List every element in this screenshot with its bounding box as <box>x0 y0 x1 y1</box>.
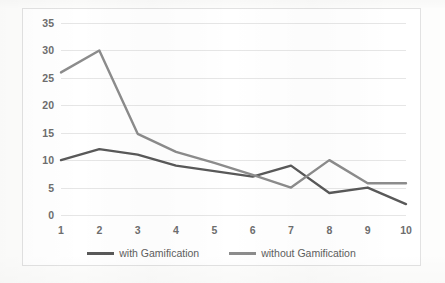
legend-entry[interactable]: without Gamification <box>229 247 356 259</box>
x-axis-tick-label: 7 <box>288 224 294 236</box>
legend-line-swatch-icon <box>87 252 114 255</box>
y-axis-tick-label: 0 <box>48 209 54 221</box>
y-axis-tick-label: 20 <box>42 99 54 111</box>
legend-line-swatch-icon <box>229 252 256 255</box>
chart-frame: 05101520253035 12345678910 with Gamifica… <box>22 8 421 266</box>
y-axis-tick-label: 5 <box>48 182 54 194</box>
x-axis-tick-label: 9 <box>365 224 371 236</box>
series-lines <box>61 23 406 215</box>
series-line-1 <box>61 149 406 204</box>
y-axis-tick-label: 15 <box>42 127 54 139</box>
legend-label: without Gamification <box>261 247 356 259</box>
y-axis-tick-label: 35 <box>42 17 54 29</box>
x-axis-tick-label: 8 <box>326 224 332 236</box>
legend-entry[interactable]: with Gamification <box>87 247 199 259</box>
x-axis-tick-label: 1 <box>58 224 64 236</box>
y-axis-tick-label: 30 <box>42 44 54 56</box>
gridline <box>61 215 406 216</box>
y-axis-tick-label: 10 <box>42 154 54 166</box>
x-axis-tick-label: 3 <box>135 224 141 236</box>
legend-label: with Gamification <box>119 247 199 259</box>
x-axis-tick-label: 6 <box>250 224 256 236</box>
x-axis-tick-label: 4 <box>173 224 179 236</box>
plot-area: 05101520253035 12345678910 <box>61 23 406 215</box>
x-axis-tick-label: 10 <box>400 224 412 236</box>
series-line-2 <box>61 50 406 187</box>
chart-legend: with Gamificationwithout Gamification <box>23 247 420 259</box>
y-axis-tick-label: 25 <box>42 72 54 84</box>
x-axis-tick-label: 2 <box>96 224 102 236</box>
x-axis-tick-label: 5 <box>211 224 217 236</box>
